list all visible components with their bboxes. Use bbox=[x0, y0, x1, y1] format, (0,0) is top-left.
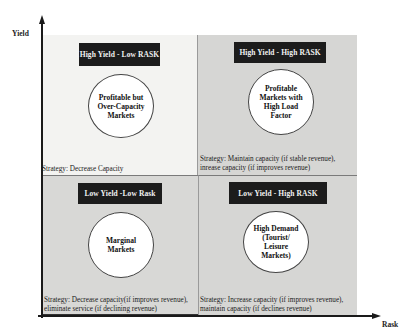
segment-circle-profitable-over-capacity: Profitable but Over-Capacity Markets bbox=[88, 74, 154, 138]
circle-text-line: Markets) bbox=[254, 251, 299, 260]
circle-text-line: Marginal bbox=[106, 236, 136, 245]
quadrant-header-low-yield-low-rask: Low Yield -Low Rask bbox=[78, 183, 162, 204]
circle-text-line: Markets bbox=[97, 111, 144, 120]
quadrant-header-high-yield-high-rask: High Yield - High RASK bbox=[234, 42, 326, 63]
circle-text-line: Leisure bbox=[254, 242, 299, 251]
strategy-line: inrease capacity (if improves revenue) bbox=[200, 164, 335, 173]
strategy-line: maintain capacity (if declines revenue) bbox=[200, 305, 343, 314]
strategy-line: Strategy: Increase capacity (if improves… bbox=[200, 296, 343, 305]
segment-circle-profitable-high-load: Profitable Markets with High Load Factor bbox=[248, 69, 314, 135]
y-axis-label: Yield bbox=[12, 29, 29, 38]
circle-text-line: High Load bbox=[259, 102, 302, 111]
circle-text-line: Over-Capacity bbox=[97, 102, 144, 111]
strategy-line: Strategy: Maintain capacity (if stable r… bbox=[200, 155, 335, 164]
strategy-line: Strategy: Decrease capacity(if improves … bbox=[44, 296, 188, 305]
circle-text-line: High Demand bbox=[254, 224, 299, 233]
circle-text-line: Markets with bbox=[259, 93, 302, 102]
circle-text-line: Markets bbox=[106, 245, 136, 254]
segment-circle-marginal-markets: Marginal Markets bbox=[88, 212, 154, 278]
segment-circle-high-demand-leisure: High Demand (Tourist/ Leisure Markets) bbox=[243, 211, 309, 273]
strategy-line: Strategy: Decrease Capacity bbox=[42, 165, 123, 174]
circle-text-line: Profitable bbox=[259, 84, 302, 93]
strategy-text-top-left: Strategy: Decrease Capacity bbox=[42, 165, 123, 174]
circle-text-line: Profitable but bbox=[97, 93, 144, 102]
quadrant-header-high-yield-low-rask: High Yield - Low RASK bbox=[79, 43, 160, 66]
circle-text-line: (Tourist/ bbox=[254, 233, 299, 242]
x-axis-label: Rask bbox=[382, 320, 398, 329]
strategy-line: eliminate service (if declining revenue) bbox=[44, 305, 188, 314]
quadrant-header-low-yield-high-rask: Low Yield - High RASK bbox=[229, 182, 327, 204]
strategy-text-top-right: Strategy: Maintain capacity (if stable r… bbox=[200, 155, 335, 173]
circle-text-line: Factor bbox=[259, 111, 302, 120]
strategy-text-bottom-right: Strategy: Increase capacity (if improves… bbox=[200, 296, 343, 314]
strategy-text-bottom-left: Strategy: Decrease capacity(if improves … bbox=[44, 296, 188, 314]
